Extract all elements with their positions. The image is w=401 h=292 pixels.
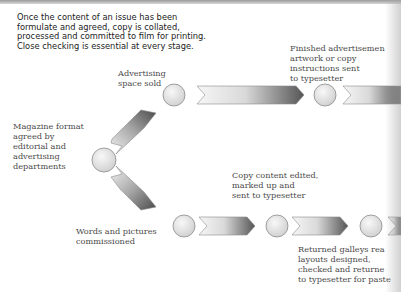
page-binding-shadow	[385, 0, 401, 292]
arrow-bottom-1	[199, 217, 255, 235]
circle-node-advertising	[163, 84, 185, 106]
circle-node-finished-ads	[314, 84, 336, 106]
circle-node-start	[92, 148, 116, 172]
circle-node-copy-edited	[266, 215, 288, 237]
circle-node-returned-galleys	[360, 215, 382, 237]
arrow-diagonal-up	[108, 107, 157, 154]
arrow-top-1	[197, 86, 304, 104]
circle-node-words-pictures	[173, 215, 195, 237]
process-flow-diagram	[0, 0, 401, 292]
arrow-bottom-2	[292, 217, 348, 235]
arrow-diagonal-down	[111, 166, 156, 210]
